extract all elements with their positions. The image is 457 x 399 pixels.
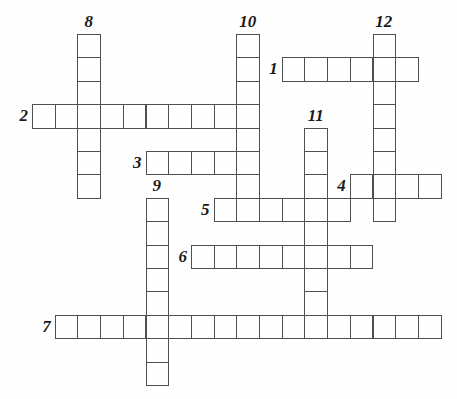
crossword-cell-word4-4[interactable] bbox=[418, 174, 442, 198]
crossword-cell-word6-3[interactable] bbox=[236, 245, 260, 269]
crossword-cell-word2-6[interactable] bbox=[146, 104, 170, 128]
crossword-cell-word10-3[interactable] bbox=[236, 81, 260, 105]
crossword-cell-word8-6[interactable] bbox=[77, 151, 101, 175]
crossword-cell-word3-3[interactable] bbox=[191, 151, 215, 175]
crossword-cell-word8-7[interactable] bbox=[77, 174, 101, 198]
crossword-cell-word1-1[interactable] bbox=[282, 57, 306, 81]
word-11-number-label: 11 bbox=[304, 106, 327, 126]
word-5-number-label: 5 bbox=[180, 198, 210, 221]
crossword-cell-word6-4[interactable] bbox=[259, 245, 283, 269]
crossword-cell-word8-2[interactable] bbox=[77, 57, 101, 81]
crossword-cell-word3-4[interactable] bbox=[214, 151, 238, 175]
crossword-cell-word12-6[interactable] bbox=[373, 151, 397, 175]
word-10-number-label: 10 bbox=[236, 12, 259, 32]
crossword-cell-word12-4[interactable] bbox=[373, 104, 397, 128]
crossword-cell-word9-1[interactable] bbox=[146, 198, 170, 222]
crossword-grid: 123456789101112 bbox=[0, 0, 457, 399]
crossword-cell-word1-4[interactable] bbox=[350, 57, 374, 81]
word-3-number-label: 3 bbox=[112, 151, 142, 174]
crossword-cell-word2-2[interactable] bbox=[55, 104, 79, 128]
crossword-cell-word7-11[interactable] bbox=[282, 315, 306, 339]
crossword-cell-word10-5[interactable] bbox=[236, 128, 260, 152]
crossword-cell-word2-9[interactable] bbox=[214, 104, 238, 128]
crossword-cell-word7-15[interactable] bbox=[373, 315, 397, 339]
crossword-cell-word12-7[interactable] bbox=[373, 174, 397, 198]
crossword-cell-word7-16[interactable] bbox=[395, 315, 419, 339]
crossword-cell-word5-6[interactable] bbox=[327, 198, 351, 222]
crossword-cell-word9-7[interactable] bbox=[146, 338, 170, 362]
crossword-cell-word2-8[interactable] bbox=[191, 104, 215, 128]
crossword-cell-word7-17[interactable] bbox=[418, 315, 442, 339]
crossword-cell-word10-6[interactable] bbox=[236, 151, 260, 175]
crossword-cell-word7-7[interactable] bbox=[191, 315, 215, 339]
crossword-cell-word9-2[interactable] bbox=[146, 221, 170, 245]
crossword-cell-word12-2[interactable] bbox=[373, 57, 397, 81]
crossword-cell-word6-8[interactable] bbox=[350, 245, 374, 269]
crossword-cell-word8-4[interactable] bbox=[77, 104, 101, 128]
crossword-cell-word6-2[interactable] bbox=[214, 245, 238, 269]
word-12-number-label: 12 bbox=[373, 12, 396, 32]
crossword-cell-word8-1[interactable] bbox=[77, 34, 101, 58]
crossword-cell-word9-3[interactable] bbox=[146, 245, 170, 269]
crossword-cell-word12-3[interactable] bbox=[373, 81, 397, 105]
crossword-cell-word1-6[interactable] bbox=[395, 57, 419, 81]
crossword-cell-word7-2[interactable] bbox=[77, 315, 101, 339]
crossword-cell-word2-4[interactable] bbox=[100, 104, 124, 128]
crossword-cell-word11-2[interactable] bbox=[304, 151, 328, 175]
crossword-cell-word10-4[interactable] bbox=[236, 104, 260, 128]
crossword-cell-word6-1[interactable] bbox=[191, 245, 215, 269]
crossword-cell-word7-6[interactable] bbox=[168, 315, 192, 339]
crossword-cell-word11-3[interactable] bbox=[304, 174, 328, 198]
crossword-cell-word7-1[interactable] bbox=[55, 315, 79, 339]
crossword-cell-word10-7[interactable] bbox=[236, 174, 260, 198]
word-9-number-label: 9 bbox=[146, 176, 169, 196]
crossword-cell-word6-7[interactable] bbox=[327, 245, 351, 269]
word-8-number-label: 8 bbox=[77, 12, 100, 32]
word-2-number-label: 2 bbox=[0, 104, 28, 127]
crossword-cell-word5-3[interactable] bbox=[259, 198, 283, 222]
crossword-cell-word5-1[interactable] bbox=[214, 198, 238, 222]
crossword-cell-word10-8[interactable] bbox=[236, 198, 260, 222]
crossword-cell-word7-3[interactable] bbox=[100, 315, 124, 339]
crossword-cell-word2-1[interactable] bbox=[32, 104, 56, 128]
crossword-cell-word8-3[interactable] bbox=[77, 81, 101, 105]
crossword-cell-word9-4[interactable] bbox=[146, 268, 170, 292]
crossword-cell-word7-10[interactable] bbox=[259, 315, 283, 339]
crossword-cell-word11-4[interactable] bbox=[304, 198, 328, 222]
crossword-cell-word10-1[interactable] bbox=[236, 34, 260, 58]
crossword-cell-word9-8[interactable] bbox=[146, 362, 170, 386]
crossword-cell-word7-13[interactable] bbox=[327, 315, 351, 339]
crossword-cell-word4-3[interactable] bbox=[395, 174, 419, 198]
crossword-cell-word2-5[interactable] bbox=[123, 104, 147, 128]
crossword-cell-word7-14[interactable] bbox=[350, 315, 374, 339]
crossword-cell-word5-4[interactable] bbox=[282, 198, 306, 222]
crossword-cell-word11-9[interactable] bbox=[304, 315, 328, 339]
crossword-cell-word8-5[interactable] bbox=[77, 128, 101, 152]
crossword-cell-word11-6[interactable] bbox=[304, 245, 328, 269]
crossword-cell-word11-7[interactable] bbox=[304, 268, 328, 292]
crossword-cell-word11-1[interactable] bbox=[304, 128, 328, 152]
crossword-cell-word3-1[interactable] bbox=[146, 151, 170, 175]
crossword-cell-word3-2[interactable] bbox=[168, 151, 192, 175]
crossword-cell-word6-5[interactable] bbox=[282, 245, 306, 269]
crossword-cell-word11-8[interactable] bbox=[304, 291, 328, 315]
crossword-cell-word12-5[interactable] bbox=[373, 128, 397, 152]
crossword-cell-word7-4[interactable] bbox=[123, 315, 147, 339]
crossword-cell-word10-2[interactable] bbox=[236, 57, 260, 81]
crossword-cell-word7-8[interactable] bbox=[214, 315, 238, 339]
crossword-cell-word12-8[interactable] bbox=[373, 198, 397, 222]
crossword-cell-word11-5[interactable] bbox=[304, 221, 328, 245]
crossword-cell-word1-2[interactable] bbox=[304, 57, 328, 81]
word-7-number-label: 7 bbox=[21, 315, 51, 338]
crossword-cell-word9-6[interactable] bbox=[146, 315, 170, 339]
crossword-cell-word12-1[interactable] bbox=[373, 34, 397, 58]
crossword-cell-word7-9[interactable] bbox=[236, 315, 260, 339]
crossword-cell-word4-1[interactable] bbox=[350, 174, 374, 198]
crossword-cell-word9-5[interactable] bbox=[146, 291, 170, 315]
crossword-cell-word2-7[interactable] bbox=[168, 104, 192, 128]
crossword-cell-word1-3[interactable] bbox=[327, 57, 351, 81]
